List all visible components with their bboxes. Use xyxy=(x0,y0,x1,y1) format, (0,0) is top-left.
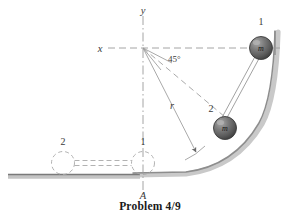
ball-2-index-label: 2 xyxy=(209,103,214,114)
figure-caption: Problem 4/9 xyxy=(0,200,300,212)
angle-label: 45° xyxy=(168,54,181,64)
y-axis-label: y xyxy=(140,5,146,16)
ghost-1-index-label: 1 xyxy=(141,136,146,147)
ghost-positions xyxy=(52,152,155,175)
x-axis-label: x xyxy=(97,43,103,54)
ball-1-index-label: 1 xyxy=(259,16,264,27)
figure-drawing: x y 45° r m 1 m xyxy=(0,0,300,219)
rod-edge-right xyxy=(223,54,262,126)
ghost-2-outline xyxy=(52,152,75,175)
rod-edge-left xyxy=(219,52,258,124)
radius-arc-tick xyxy=(185,146,205,160)
ball-2-mass-label: m xyxy=(222,124,228,133)
ghost-2-index-label: 2 xyxy=(61,136,66,147)
ball-1: m xyxy=(250,37,273,60)
ground-line xyxy=(8,175,140,177)
ball-1-mass-label: m xyxy=(258,44,264,53)
problem-figure: x y 45° r m 1 m xyxy=(0,0,300,219)
ball-2: m xyxy=(214,117,237,140)
connecting-rod xyxy=(219,52,262,126)
